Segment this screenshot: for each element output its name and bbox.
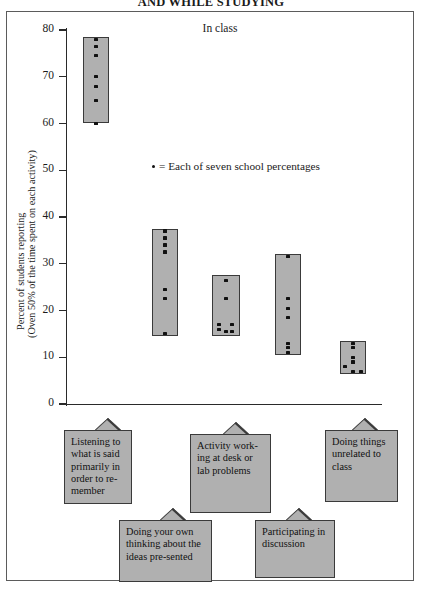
callout-label: Doing things unrelated to class	[325, 430, 398, 502]
y-tick-80	[59, 29, 66, 30]
callout-label: Participating in discussion	[255, 520, 335, 578]
data-point	[286, 307, 289, 310]
data-bar-3	[212, 275, 240, 336]
y-tick-30	[59, 263, 66, 264]
data-point	[217, 323, 220, 326]
data-bar-1	[83, 37, 109, 123]
data-point	[351, 356, 354, 359]
data-point	[94, 54, 97, 57]
y-tick-label-80: 80	[20, 22, 54, 34]
y-tick-70	[59, 76, 66, 77]
data-point	[163, 297, 166, 300]
data-point	[351, 342, 354, 345]
data-point	[163, 250, 166, 253]
data-point	[163, 288, 166, 291]
data-point	[230, 330, 233, 333]
data-point	[163, 229, 166, 232]
data-point	[359, 370, 362, 373]
data-point	[163, 332, 166, 335]
y-tick-label-40: 40	[20, 209, 54, 221]
data-point	[343, 365, 346, 368]
chart-plot-area: In class Percent of students reporting (…	[0, 0, 422, 591]
data-point	[286, 316, 289, 319]
data-point	[94, 45, 97, 48]
data-point	[94, 75, 97, 78]
y-axis-line	[66, 28, 67, 406]
y-tick-label-70: 70	[20, 69, 54, 81]
y-tick-10	[59, 357, 66, 358]
legend-dot-icon	[152, 165, 155, 168]
data-point	[94, 85, 97, 88]
callout-label: Listening to what is said primarily in o…	[64, 430, 132, 504]
data-point	[163, 243, 166, 246]
y-tick-label-20: 20	[20, 303, 54, 315]
data-point	[94, 38, 97, 41]
callout-label: Activity work-ing at desk or lab problem…	[190, 434, 271, 513]
data-bar-4	[275, 254, 301, 355]
chart-legend: = Each of seven school percentages	[152, 160, 320, 172]
y-tick-label-0: 0	[20, 396, 54, 408]
y-tick-0	[59, 403, 66, 404]
data-point	[224, 279, 227, 282]
data-point	[286, 297, 289, 300]
data-point	[351, 370, 354, 373]
y-tick-40	[59, 216, 66, 217]
y-tick-label-10: 10	[20, 349, 54, 361]
data-point	[224, 330, 227, 333]
legend-equals: =	[159, 160, 165, 172]
x-axis-line	[66, 404, 382, 405]
data-point	[94, 122, 97, 125]
data-point	[217, 328, 220, 331]
callout-label: Doing your own thinking about the ideas …	[119, 520, 212, 582]
y-tick-label-50: 50	[20, 162, 54, 174]
y-tick-50	[59, 170, 66, 171]
data-point	[286, 342, 289, 345]
y-tick-60	[59, 123, 66, 124]
y-tick-label-30: 30	[20, 256, 54, 268]
data-point	[286, 255, 289, 258]
y-tick-20	[59, 310, 66, 311]
data-point	[163, 236, 166, 239]
data-point	[351, 360, 354, 363]
data-point	[224, 297, 227, 300]
data-point	[94, 99, 97, 102]
data-point	[230, 323, 233, 326]
data-point	[286, 351, 289, 354]
y-tick-label-60: 60	[20, 116, 54, 128]
chart-subtitle: In class	[150, 22, 290, 34]
legend-text: Each of seven school percentages	[168, 160, 320, 172]
screenshot-root: AND WHILE STUDYING In class Percent of s…	[0, 0, 422, 591]
